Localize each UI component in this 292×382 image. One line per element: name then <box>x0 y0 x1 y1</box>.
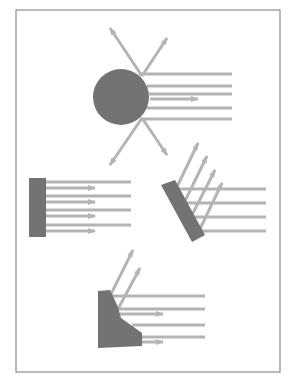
reflected-ray-arrow <box>110 118 142 165</box>
reflection-diagram <box>0 0 292 382</box>
sphere-object <box>93 69 149 125</box>
flat-plate-object <box>29 178 46 237</box>
diagram-canvas <box>0 0 292 382</box>
panel-corner <box>98 250 205 348</box>
reflected-ray-arrow <box>110 28 142 76</box>
reflected-ray-arrow <box>142 118 167 155</box>
corner-object <box>98 290 142 348</box>
panel-sphere <box>93 28 232 165</box>
panel-flat-plate <box>29 178 131 237</box>
panel-tilted-plate <box>161 143 266 242</box>
reflected-ray-arrow <box>191 170 215 217</box>
reflected-ray-arrow <box>142 38 167 76</box>
panels-group <box>29 28 266 348</box>
